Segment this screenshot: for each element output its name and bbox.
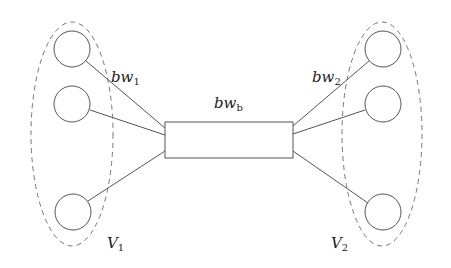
node-v2-1 bbox=[365, 31, 401, 67]
node-v2-2 bbox=[365, 86, 401, 122]
label-bw1: bw1 bbox=[111, 68, 140, 87]
label-v1: V1 bbox=[107, 234, 124, 253]
node-v1-2 bbox=[54, 86, 90, 122]
node-v1-3 bbox=[55, 194, 91, 230]
link-v1-node3 bbox=[88, 151, 165, 201]
link-v1-node2 bbox=[90, 110, 165, 135]
bottleneck-link bbox=[165, 122, 293, 158]
label-v2: V2 bbox=[331, 234, 348, 253]
node-v2-3 bbox=[365, 194, 401, 230]
label-bw2: bw2 bbox=[312, 68, 341, 87]
link-v2-node3 bbox=[293, 151, 368, 203]
network-diagram: bw1 bwb bw2 V1 V2 bbox=[0, 0, 451, 268]
link-v2-node2 bbox=[293, 110, 365, 134]
label-bwb: bwb bbox=[214, 94, 243, 113]
node-v1-1 bbox=[54, 31, 90, 67]
